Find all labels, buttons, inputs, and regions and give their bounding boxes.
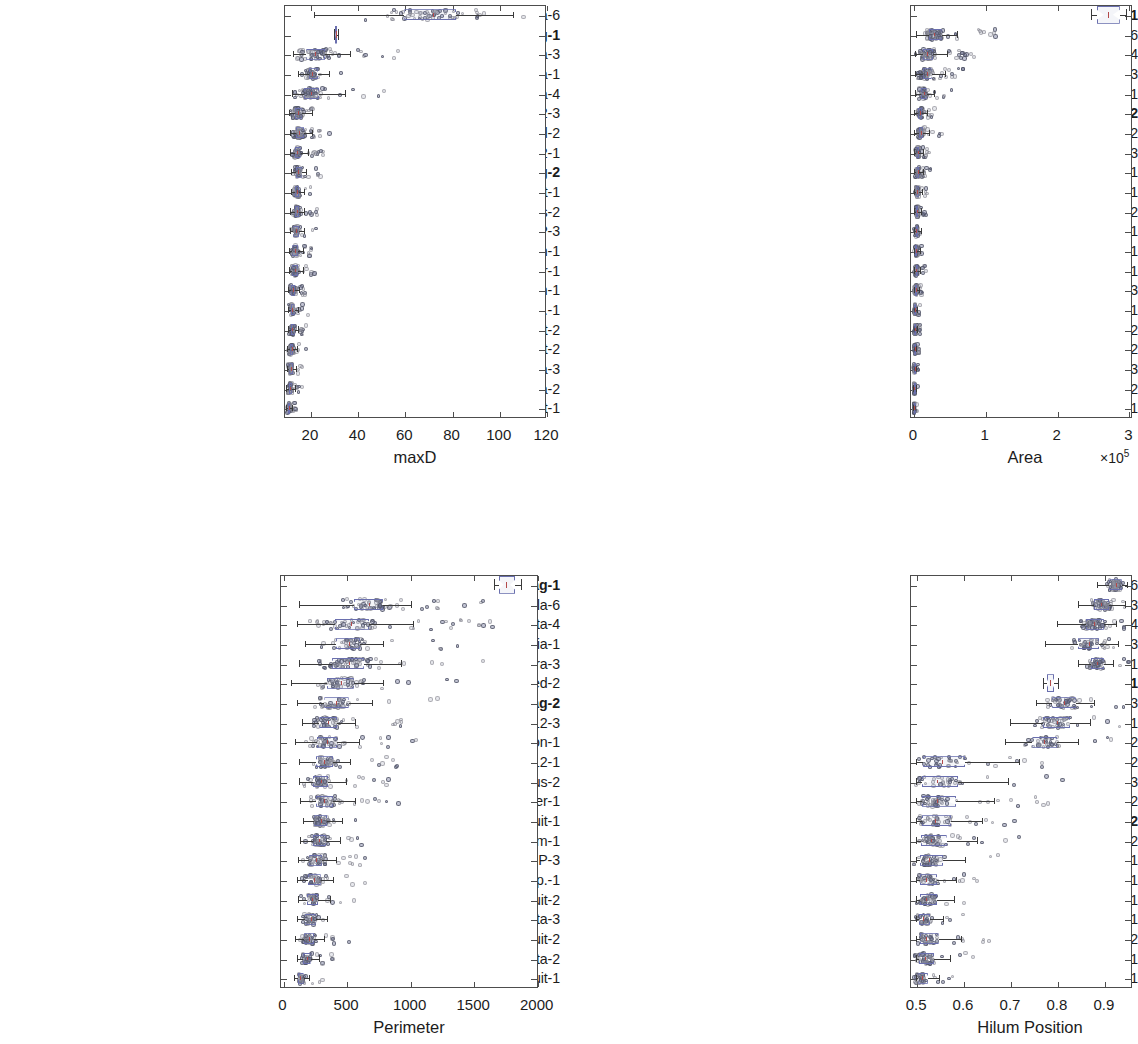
whisker-high xyxy=(1076,703,1095,704)
whisker-cap-low xyxy=(334,29,335,40)
whisker-cap-low xyxy=(914,149,915,156)
x-tick-label-area-1: 1 xyxy=(981,426,989,443)
y-tick-mark xyxy=(539,272,545,273)
y-tick-mark xyxy=(281,842,287,843)
x-tick-mark xyxy=(1058,412,1059,417)
y-tick-mark xyxy=(1125,55,1131,56)
scatter-point xyxy=(371,619,374,622)
y-tick-mark xyxy=(539,291,545,292)
whisker-cap-low xyxy=(916,955,917,962)
scatter-point xyxy=(388,625,392,629)
scatter-point xyxy=(965,815,969,819)
whisker-low xyxy=(291,683,327,684)
x-tick-mark-top xyxy=(1058,6,1059,11)
whisker-cap-high xyxy=(297,346,298,353)
y-tick-mark xyxy=(281,960,287,961)
whisker-cap-high xyxy=(922,189,923,196)
median-line xyxy=(311,92,312,96)
y-tick-mark xyxy=(1125,114,1131,115)
y-tick-mark xyxy=(285,75,291,76)
whisker-high xyxy=(302,113,313,114)
scatter-point xyxy=(445,678,449,682)
scatter-point xyxy=(961,913,964,916)
median-line xyxy=(295,249,296,253)
whisker-cap-low xyxy=(289,267,290,274)
median-line xyxy=(292,347,293,351)
y-tick-mark xyxy=(1125,291,1131,292)
median-line xyxy=(1089,642,1090,646)
whisker-cap-low xyxy=(299,601,300,608)
scatter-point xyxy=(431,639,434,642)
scatter-point xyxy=(308,744,312,748)
whisker-high xyxy=(327,821,342,822)
y-tick-mark xyxy=(531,979,537,980)
scatter-point xyxy=(358,745,362,749)
y-tick-mark xyxy=(531,645,537,646)
y-tick-mark xyxy=(281,743,287,744)
scatter-point xyxy=(332,941,336,945)
whisker-cap-high xyxy=(298,307,299,314)
whisker-low xyxy=(295,742,317,743)
y-tick-mark xyxy=(531,783,537,784)
x-tick-mark xyxy=(311,412,312,417)
scatter-point xyxy=(330,900,335,905)
whisker-cap-high xyxy=(917,307,918,314)
scatter-point xyxy=(386,735,391,740)
scatter-point xyxy=(327,96,330,99)
median-line xyxy=(290,387,291,391)
y-tick-mark xyxy=(1125,311,1131,312)
scatter-point xyxy=(361,638,364,641)
y-tick-mark xyxy=(531,743,537,744)
whisker-cap-high xyxy=(372,700,373,707)
x-tick-label-hilum-position-1: 0.6 xyxy=(953,996,974,1013)
whisker-cap-high xyxy=(359,739,360,746)
scatter-point xyxy=(950,833,955,838)
y-tick-mark xyxy=(911,743,917,744)
whisker-low xyxy=(1010,723,1043,724)
whisker-high xyxy=(456,15,513,16)
whisker-cap-high xyxy=(916,366,917,373)
median-line xyxy=(1050,680,1051,686)
median-line xyxy=(296,229,297,233)
whisker-cap-low xyxy=(305,641,306,648)
y-tick-mark xyxy=(539,36,545,37)
whisker-cap-low xyxy=(297,621,298,628)
y-tick-mark xyxy=(1125,252,1131,253)
whisker-cap-low xyxy=(916,877,917,884)
scatter-point xyxy=(960,878,964,882)
whisker-cap-low xyxy=(293,51,294,58)
whisker-high xyxy=(937,880,956,881)
whisker-cap-low xyxy=(314,12,315,19)
y-tick-mark xyxy=(531,763,537,764)
median-line xyxy=(315,52,316,56)
whisker-cap-low xyxy=(299,778,300,785)
y-tick-mark xyxy=(281,665,287,666)
whisker-cap-low xyxy=(303,818,304,825)
scatter-point xyxy=(1118,664,1121,667)
median-line xyxy=(916,249,917,253)
y-tick-mark xyxy=(1125,842,1131,843)
median-line xyxy=(916,229,917,233)
scatter-point xyxy=(1009,798,1013,802)
scatter-point xyxy=(363,856,367,860)
whisker-cap-low xyxy=(286,405,287,412)
whisker-cap-high xyxy=(401,660,402,667)
median-line xyxy=(937,799,938,803)
y-tick-mark xyxy=(1125,350,1131,351)
y-tick-mark xyxy=(1125,979,1131,980)
scatter-point xyxy=(420,607,424,611)
median-line xyxy=(312,898,313,902)
scatter-point xyxy=(430,660,435,665)
whisker-high xyxy=(369,624,413,625)
median-line xyxy=(917,190,918,194)
scatter-point xyxy=(380,761,384,765)
y-tick-mark xyxy=(281,704,287,705)
whisker-high xyxy=(1104,664,1113,665)
x-tick-label-hilum-position-4: 0.9 xyxy=(1093,996,1114,1013)
scatter-point xyxy=(1046,705,1050,709)
scatter-point xyxy=(962,56,967,61)
whisker-cap-low xyxy=(300,837,301,844)
whisker-low xyxy=(292,94,304,95)
scatter-point xyxy=(924,186,928,190)
x-tick-label-perimeter-3: 1500 xyxy=(456,996,489,1013)
